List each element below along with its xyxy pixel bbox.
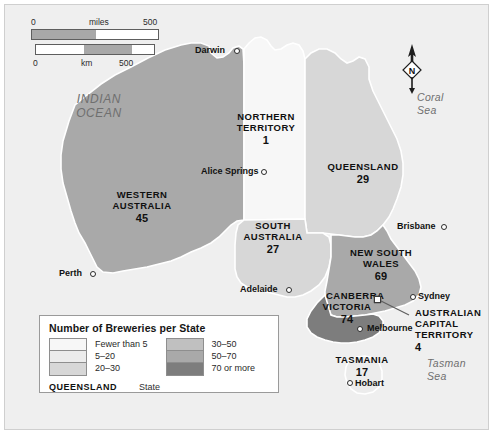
compass-shaft-lower	[411, 77, 413, 89]
wa-count: 45	[95, 212, 189, 225]
scalebar-miles-fill	[32, 30, 96, 39]
legend-panel: Number of Breweries per State Fewer than…	[39, 315, 279, 393]
scalebar-miles-start: 0	[31, 17, 36, 27]
legend-footer-description: State	[139, 382, 160, 392]
nt-count: 1	[225, 134, 307, 147]
state-label-new-south-wales: NEW SOUTH WALES 69	[338, 248, 424, 282]
city-dot-hobart[interactable]	[347, 380, 353, 386]
legend-label-30-50: 30–50	[212, 338, 256, 350]
legend-swatch-50-70	[167, 351, 203, 363]
map-canvas: INDIAN OCEAN Coral Sea Tasman Sea WESTER…	[4, 4, 489, 430]
legend-footer-key: QUEENSLAND	[49, 382, 117, 392]
legend-columns: Fewer than 5 5–20 20–30 30–50 50–70 70	[49, 338, 270, 376]
legend-swatch-5-20	[50, 351, 86, 363]
scalebar-km-fill	[84, 45, 132, 54]
indian-ocean-line-1: INDIAN	[51, 92, 147, 106]
city-dot-sydney[interactable]	[410, 294, 416, 300]
nsw-label-line-2: WALES	[338, 259, 424, 270]
legend-label-20-30: 20–30	[95, 362, 148, 374]
scalebar-km-end: 500	[119, 58, 133, 68]
legend-label-50-70: 50–70	[212, 350, 256, 362]
legend-label-fewer-than-5: Fewer than 5	[95, 338, 148, 350]
state-shape-queensland[interactable]	[305, 49, 403, 237]
wa-label-line-2: AUSTRALIA	[95, 201, 189, 212]
compass-south-tip	[409, 88, 415, 94]
ocean-label-indian-ocean: INDIAN OCEAN	[51, 92, 147, 121]
sa-label-line-2: AUSTRALIA	[229, 232, 317, 243]
compass-n-letter: N	[409, 66, 416, 76]
state-label-tasmania: TASMANIA 17	[325, 355, 399, 379]
city-label-hobart: Hobart	[355, 378, 384, 388]
state-label-northern-territory: NORTHERN TERRITORY 1	[225, 112, 307, 146]
nsw-count: 69	[338, 270, 424, 283]
legend-label-70-or-more: 70 or more	[212, 362, 256, 374]
indian-ocean-line-2: OCEAN	[51, 106, 147, 120]
vic-label-line-1: VICTORIA	[316, 302, 378, 313]
city-label-darwin: Darwin	[195, 45, 225, 55]
city-label-alice-springs: Alice Springs	[201, 166, 259, 176]
legend-texts-left: Fewer than 5 5–20 20–30	[87, 338, 148, 376]
scalebar-miles-track	[31, 29, 159, 40]
state-label-south-australia: SOUTH AUSTRALIA 27	[229, 221, 317, 255]
compass-icon: N	[395, 43, 429, 95]
act-label-line-3: TERRITORY	[415, 330, 485, 341]
legend-label-5-20: 5–20	[95, 350, 148, 362]
act-count: 4	[415, 341, 485, 354]
legend-swatch-20-30	[50, 363, 86, 375]
qld-count: 29	[317, 173, 409, 186]
legend-swatch-30-50	[167, 339, 203, 351]
legend-swatch-70-or-more	[167, 363, 203, 375]
tasman-sea-line-2: Sea	[427, 370, 466, 383]
scale-bar: 0 miles 500 0 km 500	[31, 29, 159, 57]
legend-column-right: 30–50 50–70 70 or more	[166, 338, 256, 376]
coral-sea-line-2: Sea	[417, 104, 444, 117]
state-label-australian-capital-territory: AUSTRALIAN CAPITAL TERRITORY 4	[415, 308, 485, 353]
tasman-sea-line-1: Tasman	[427, 357, 466, 370]
city-label-brisbane: Brisbane	[397, 221, 436, 231]
sea-label-tasman-sea: Tasman Sea	[427, 357, 466, 382]
scalebar-km-unit: km	[81, 58, 92, 68]
tas-count: 17	[325, 366, 399, 379]
city-dot-alice-springs[interactable]	[261, 169, 267, 175]
sa-count: 27	[229, 243, 317, 256]
city-label-adelaide: Adelaide	[240, 284, 278, 294]
city-dot-melbourne[interactable]	[357, 326, 363, 332]
state-label-queensland: QUEENSLAND 29	[317, 162, 409, 186]
qld-label-line-1: QUEENSLAND	[317, 162, 409, 173]
state-label-western-australia: WESTERN AUSTRALIA 45	[95, 190, 189, 224]
city-dot-perth[interactable]	[90, 271, 96, 277]
legend-title: Number of Breweries per State	[49, 322, 270, 334]
scalebar-km-start: 0	[33, 58, 38, 68]
scalebar-miles-end: 500	[143, 17, 157, 27]
tas-label-line-1: TASMANIA	[325, 355, 399, 366]
australia-breweries-map: INDIAN OCEAN Coral Sea Tasman Sea WESTER…	[0, 0, 493, 434]
city-label-sydney: Sydney	[418, 291, 450, 301]
city-dot-brisbane[interactable]	[441, 224, 447, 230]
state-shape-western-australia[interactable]	[61, 43, 244, 273]
nt-label-line-2: TERRITORY	[225, 123, 307, 134]
legend-swatches-left	[49, 338, 87, 376]
legend-swatches-right	[166, 338, 204, 376]
capital-dot-canberra[interactable]	[374, 296, 381, 303]
legend-swatch-fewer-than-5	[50, 339, 86, 351]
scalebar-km-track	[35, 44, 155, 55]
city-label-perth: Perth	[59, 268, 82, 278]
city-dot-darwin[interactable]	[234, 48, 240, 54]
city-label-melbourne: Melbourne	[367, 323, 413, 333]
compass-rose: N	[395, 43, 429, 95]
legend-footer: QUEENSLAND State	[49, 382, 270, 392]
legend-texts-right: 30–50 50–70 70 or more	[204, 338, 256, 376]
legend-column-left: Fewer than 5 5–20 20–30	[49, 338, 148, 376]
scalebar-miles-unit: miles	[89, 17, 109, 27]
city-dot-adelaide[interactable]	[286, 287, 292, 293]
